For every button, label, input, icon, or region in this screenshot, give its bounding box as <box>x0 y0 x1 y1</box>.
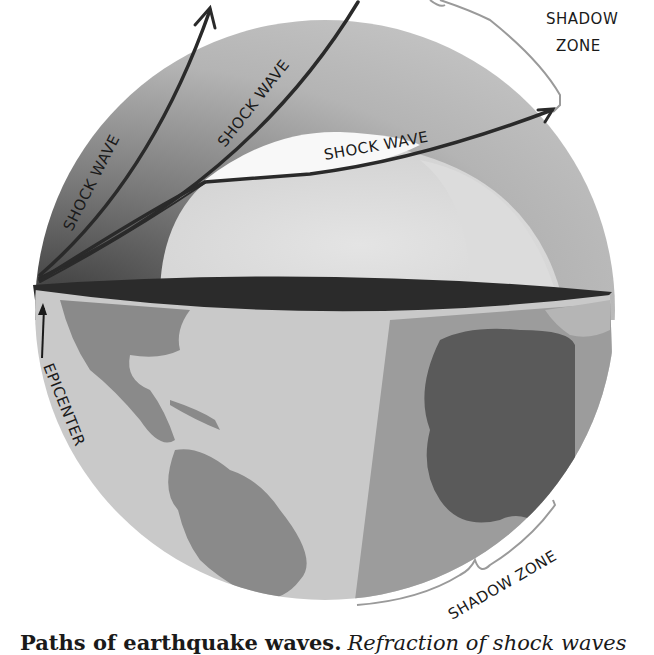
caption-title: Paths of earthquake waves. <box>20 630 341 655</box>
shadow-zone-top-label-line2: ZONE <box>556 37 601 55</box>
shadow-zone-top-label-line1: SHADOW <box>546 10 618 28</box>
figure-caption: Paths of earthquake waves.Refraction of … <box>20 630 627 655</box>
caption-text: Refraction of shock waves <box>347 631 626 655</box>
africa <box>424 329 575 525</box>
